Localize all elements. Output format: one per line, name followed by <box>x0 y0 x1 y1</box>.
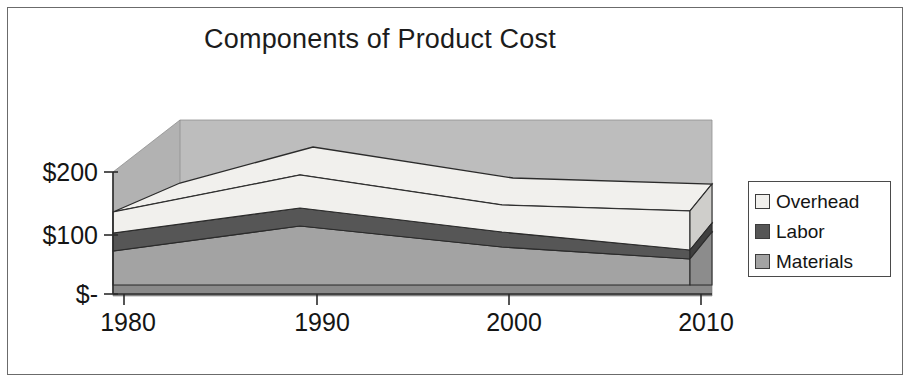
legend-label-materials: Materials <box>776 252 853 271</box>
chart-legend: Overhead Labor Materials <box>748 181 891 277</box>
x-tick-label-1980: 1980 <box>100 308 156 336</box>
chart-figure: Components of Product Cost $200 <box>0 0 913 384</box>
x-tick-label-1990: 1990 <box>294 308 350 336</box>
x-tick-label-2000: 2000 <box>486 308 542 336</box>
legend-swatch-overhead <box>755 194 770 209</box>
x-tick-label-2010: 2010 <box>678 308 734 336</box>
y-tick-label-zero: $- <box>76 280 98 308</box>
y-tick-label-100: $100 <box>42 221 98 249</box>
legend-item-labor: Labor <box>755 216 885 246</box>
legend-item-overhead: Overhead <box>755 186 885 216</box>
legend-item-materials: Materials <box>755 246 885 276</box>
legend-label-overhead: Overhead <box>776 192 859 211</box>
y-tick-label-200: $200 <box>42 158 98 186</box>
legend-swatch-labor <box>755 224 770 239</box>
legend-swatch-materials <box>755 254 770 269</box>
legend-label-labor: Labor <box>776 222 825 241</box>
